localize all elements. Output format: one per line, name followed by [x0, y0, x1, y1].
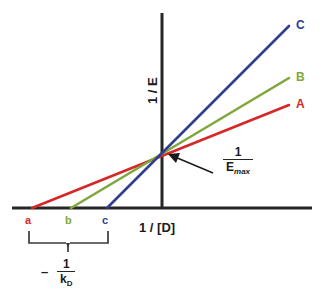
y-intercept-arrow [168, 153, 213, 173]
x-intercept-denominator: kD [57, 271, 75, 289]
y-intercept-denominator: Emax [223, 159, 253, 177]
plot-svg [0, 0, 322, 296]
series-label-A: A [296, 98, 305, 110]
x-intercept-label-c: c [102, 215, 108, 226]
x-intercept-denominator-subscript: D [67, 279, 73, 288]
series-line-B [71, 78, 289, 208]
x-intercept-denominator-base: k [60, 272, 67, 286]
x-intercept-annotation: 1 kD [57, 258, 75, 288]
y-intercept-denominator-subscript: max [234, 167, 250, 176]
x-axis-label: 1 / [D] [139, 221, 175, 234]
y-axis-label: 1 / E [146, 77, 159, 104]
y-intercept-numerator: 1 [223, 146, 253, 159]
figure-canvas: 1 / E 1 / [D] C B A a b c 1 Emax – 1 kD [0, 0, 322, 296]
series-label-C: C [296, 19, 305, 31]
x-intercept-minus-sign: – [41, 264, 48, 279]
x-intercept-label-b: b [65, 215, 72, 226]
series-label-B: B [296, 71, 305, 83]
x-intercept-numerator: 1 [57, 258, 75, 271]
y-intercept-annotation: 1 Emax [223, 146, 253, 176]
x-intercept-label-a: a [25, 215, 31, 226]
y-intercept-denominator-base: E [226, 160, 234, 174]
x-intercept-bracket [29, 231, 108, 252]
